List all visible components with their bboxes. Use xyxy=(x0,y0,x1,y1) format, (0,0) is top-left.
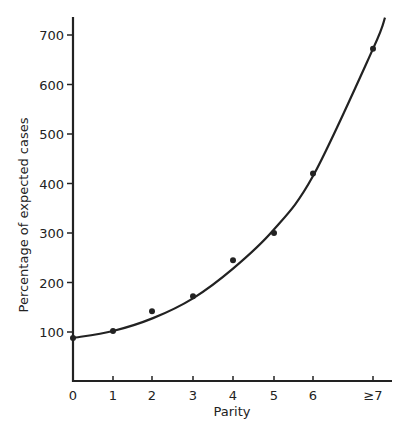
y-tick-label: 700 xyxy=(39,28,64,43)
y-tick-label: 300 xyxy=(39,226,64,241)
data-point xyxy=(190,293,196,299)
y-tick-label: 500 xyxy=(39,127,64,142)
x-tick-label: 6 xyxy=(309,388,317,403)
x-tick-label: 5 xyxy=(270,388,278,403)
y-tick-label: 100 xyxy=(39,325,64,340)
data-point xyxy=(149,308,155,314)
data-point xyxy=(70,335,76,341)
x-axis-title: Parity xyxy=(214,404,251,419)
x-tick-label: 3 xyxy=(189,388,197,403)
x-tick-label: 4 xyxy=(229,388,237,403)
x-tick-label: 2 xyxy=(148,388,156,403)
y-tick-label: 400 xyxy=(39,177,64,192)
y-axis-title: Percentage of expected cases xyxy=(16,117,31,312)
y-tick-label: 600 xyxy=(39,78,64,93)
x-tick-label: ≥7 xyxy=(363,388,382,403)
data-point xyxy=(310,171,316,177)
chart: 100200300400500600700 0123456≥7 Parity P… xyxy=(0,0,411,435)
fitted-curve xyxy=(73,18,385,338)
y-tick-label: 200 xyxy=(39,276,64,291)
data-point xyxy=(370,46,376,52)
data-point xyxy=(271,230,277,236)
data-point xyxy=(110,328,116,334)
data-points xyxy=(70,46,376,341)
y-axis-ticks: 100200300400500600700 xyxy=(39,28,73,340)
x-tick-label: 1 xyxy=(109,388,117,403)
x-tick-label: 0 xyxy=(69,388,77,403)
data-point xyxy=(230,257,236,263)
